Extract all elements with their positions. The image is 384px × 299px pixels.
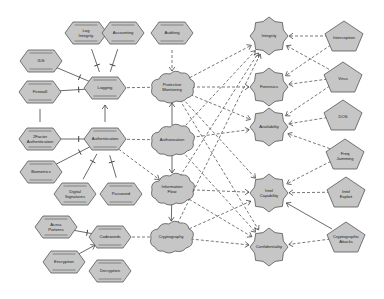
edge-cryptographic_attacks-to-confidentiality xyxy=(289,239,330,247)
node-cryptographic-attacks[interactable]: CryptographicAttacks xyxy=(327,222,365,252)
edge-line xyxy=(73,230,94,234)
security-concept-diagram: LogIntegrityAccountingAuditingIDSFirewal… xyxy=(0,0,384,299)
node-protective-monitoring[interactable]: ProtectiveMonitoring xyxy=(152,71,195,103)
edge-authentication-to-information_flow xyxy=(119,149,160,179)
node-label: Interception xyxy=(333,35,356,40)
node-label: Flow xyxy=(168,189,178,194)
node-digital-signatures[interactable]: DigitalSignatures xyxy=(54,183,96,205)
node-decryption[interactable]: Decryption xyxy=(89,260,131,282)
edge-accounting-to-logging xyxy=(110,49,118,72)
node-label: Exploit xyxy=(340,194,353,199)
edge-authentication-to-logging xyxy=(102,105,108,122)
node-label: Jamming xyxy=(337,156,355,161)
node-label: Cryptography xyxy=(158,234,184,239)
bar-marker-icon xyxy=(90,160,95,163)
node-information-flow[interactable]: InformationFlow xyxy=(152,173,195,205)
edge-line xyxy=(180,100,259,230)
edge-virus-to-availability xyxy=(286,86,330,116)
edge-password-to-authentication xyxy=(109,155,116,177)
node-accounting[interactable]: Accounting xyxy=(102,22,144,44)
edge-line xyxy=(187,190,249,193)
node-intel-exploit[interactable]: IntelExploit xyxy=(327,177,365,207)
node-label: Decryption xyxy=(100,268,121,273)
node-freq-jamming[interactable]: FreqJamming xyxy=(326,139,364,169)
node-availability[interactable]: Availability xyxy=(250,108,288,146)
node-interception[interactable]: Interception xyxy=(325,21,363,51)
node-label: Auditing xyxy=(164,30,180,35)
node-intel-capability[interactable]: IntelCapability xyxy=(250,174,288,212)
edge-line xyxy=(286,45,331,76)
node-label: Codewords xyxy=(99,234,120,239)
edge-ids-to-logging xyxy=(57,68,90,82)
edge-line xyxy=(286,86,330,116)
edge-information_flow-to-intel_capability xyxy=(187,189,249,195)
node-label: Attacks xyxy=(339,239,353,244)
node-firewall[interactable]: Firewall xyxy=(19,81,61,103)
node-biometrics[interactable]: Biometrics xyxy=(20,161,62,183)
edge-encryption-to-codewords xyxy=(79,245,95,254)
edge-information_flow-to-cryptography xyxy=(169,204,175,221)
node-two-factor[interactable]: 2FactorAuthentication xyxy=(19,128,61,150)
node-access-patterns[interactable]: AcessPatterns xyxy=(35,216,77,238)
edge-intel_exploit-to-intel_capability xyxy=(289,190,330,196)
node-authentication[interactable]: Authentication xyxy=(84,128,126,150)
edge-protective_monitoring-to-integrity xyxy=(185,45,251,80)
edge-freq_jamming-to-intel_capability xyxy=(287,161,331,184)
edge-cryptographic_attacks-to-intel_capability xyxy=(286,202,332,229)
edge-line xyxy=(286,203,332,229)
node-virus[interactable]: Virus xyxy=(324,62,362,92)
edge-virus-to-forensics xyxy=(289,79,327,86)
node-logging[interactable]: Logging xyxy=(84,77,126,99)
edge-authorization-to-availability xyxy=(187,127,249,138)
node-authorization[interactable]: Authorization xyxy=(152,124,195,156)
edge-line xyxy=(289,192,330,193)
node-ids[interactable]: IDS xyxy=(20,50,62,72)
edge-line xyxy=(289,79,327,84)
edge-line xyxy=(110,155,117,177)
node-label: Capability xyxy=(260,193,279,198)
arrowhead-icon xyxy=(286,71,291,76)
node-integrity[interactable]: Integrity xyxy=(250,17,288,55)
bar-marker-icon xyxy=(87,230,88,236)
arrowhead-icon xyxy=(287,180,292,185)
edge-protective_monitoring-to-forensics xyxy=(187,84,249,90)
node-auditing[interactable]: Auditing xyxy=(151,22,193,44)
edge-virus-to-integrity xyxy=(286,45,329,69)
edge-cryptography-to-confidentiality xyxy=(186,239,249,248)
node-codewords[interactable]: Codewords xyxy=(89,226,131,248)
edge-line xyxy=(288,134,330,149)
edge-line xyxy=(119,149,160,179)
node-cryptography[interactable]: Cryptography xyxy=(151,221,194,253)
edge-freq_jamming-to-availability xyxy=(288,132,330,148)
node-encryption[interactable]: Encryption xyxy=(43,251,85,273)
edge-biometrics-to-authentication xyxy=(56,147,90,164)
edge-information_flow-to-integrity xyxy=(180,53,258,176)
edge-authentication-to-authorization xyxy=(122,137,156,143)
edge-logging-to-protective_monitoring xyxy=(122,84,156,90)
node-confidentiality[interactable]: Confidentiality xyxy=(250,228,288,266)
edge-digital_signatures-to-authentication xyxy=(83,154,97,179)
edge-line xyxy=(57,89,88,91)
edge-line xyxy=(57,68,90,82)
node-forensics[interactable]: Forensics xyxy=(250,68,288,106)
node-log-integrity[interactable]: LogIntegrity xyxy=(65,22,107,44)
node-label: DOS xyxy=(338,114,347,119)
node-label: Encryption xyxy=(54,259,74,264)
node-dos[interactable]: DOS xyxy=(324,100,362,130)
edge-line xyxy=(110,49,117,72)
edge-line xyxy=(122,87,156,88)
edge-firewall-to-logging xyxy=(57,87,88,93)
edge-line xyxy=(83,154,97,179)
node-label: Signatures xyxy=(65,194,85,199)
edge-authorization-to-information_flow xyxy=(169,155,175,173)
edge-line xyxy=(92,49,100,72)
edge-line xyxy=(180,53,258,176)
node-password[interactable]: Password xyxy=(100,183,142,205)
node-label: Authentication xyxy=(92,136,119,141)
edge-auditing-to-protective_monitoring xyxy=(169,50,175,71)
edge-line xyxy=(122,139,156,140)
edge-log_integrity-to-logging xyxy=(92,49,100,72)
node-label: Availability xyxy=(259,124,280,129)
node-label: Firewall xyxy=(33,89,47,94)
edge-line xyxy=(186,93,251,120)
